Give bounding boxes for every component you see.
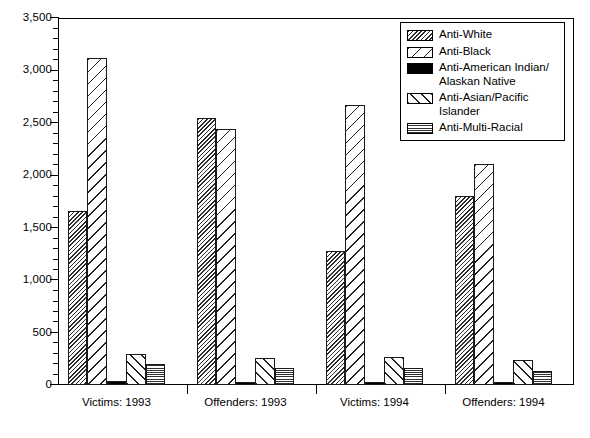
bar	[255, 358, 275, 385]
y-axis-tick-label: 1,500	[23, 222, 52, 234]
legend-item: Anti-Multi-Racial	[407, 121, 558, 135]
legend-swatch-icon	[407, 93, 433, 104]
y-axis: 05001,0001,5002,0002,5003,0003,500	[0, 0, 52, 438]
bar	[345, 105, 365, 385]
legend-swatch-icon	[407, 47, 433, 58]
legend-item: Anti-White	[407, 28, 558, 42]
x-axis-label-2: Victims: 1994	[340, 396, 409, 409]
legend-swatch-icon	[407, 123, 433, 134]
bar	[236, 382, 256, 385]
legend-item-label: Anti-Multi-Racial	[439, 121, 523, 135]
y-axis-tick-label: 2,500	[23, 117, 52, 129]
x-axis-tick	[316, 385, 317, 394]
y-axis-tick-label: 0	[46, 379, 53, 391]
bar	[365, 382, 385, 385]
bar	[216, 129, 236, 385]
legend-swatch-icon	[407, 63, 433, 74]
y-axis-tick-label: 2,000	[23, 169, 52, 181]
legend: Anti-WhiteAnti-BlackAnti-American Indian…	[400, 22, 565, 141]
legend-item-label: Anti-White	[439, 28, 492, 42]
legend-item-label: Anti-Asian/Pacific Islander	[439, 91, 558, 118]
bar	[533, 371, 553, 385]
x-axis-tick	[445, 385, 446, 394]
bar	[494, 382, 514, 385]
bar	[455, 196, 475, 385]
bar	[107, 381, 127, 385]
bar	[326, 251, 346, 385]
y-axis-tick-label: 3,000	[23, 64, 52, 76]
x-axis-label-1: Offenders: 1993	[204, 396, 286, 409]
bar	[513, 360, 533, 385]
legend-item: Anti-American Indian/ Alaskan Native	[407, 61, 558, 88]
bar	[404, 368, 424, 385]
bar	[87, 58, 107, 385]
bar	[68, 211, 88, 385]
legend-item-label: Anti-American Indian/ Alaskan Native	[439, 61, 549, 88]
legend-item: Anti-Black	[407, 45, 558, 59]
bar	[197, 118, 217, 385]
y-axis-tick-label: 1,000	[23, 274, 52, 286]
x-axis-tick	[187, 385, 188, 394]
bar-chart: 05001,0001,5002,0002,5003,0003,500 Victi…	[0, 0, 590, 438]
bar	[474, 164, 494, 385]
x-axis-label-0: Victims: 1993	[82, 396, 151, 409]
y-axis-tick-label: 500	[33, 327, 53, 339]
bar	[384, 357, 404, 385]
legend-item-label: Anti-Black	[439, 45, 491, 59]
bar	[126, 354, 146, 385]
legend-swatch-icon	[407, 30, 433, 41]
x-axis-label-3: Offenders: 1994	[462, 396, 544, 409]
bar	[275, 368, 295, 385]
bar	[146, 364, 166, 385]
legend-item: Anti-Asian/Pacific Islander	[407, 91, 558, 118]
y-axis-tick-label: 3,500	[23, 12, 52, 24]
